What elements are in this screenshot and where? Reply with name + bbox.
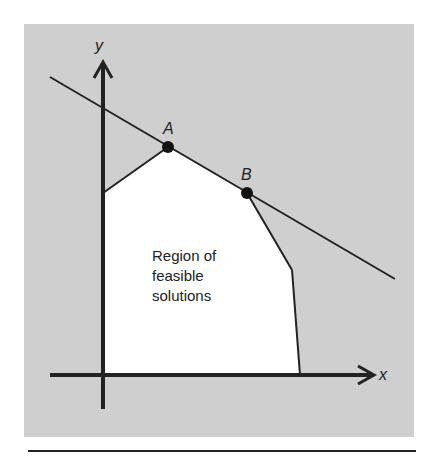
region-label-line-2: feasible: [152, 266, 216, 286]
point-b-label: B: [241, 166, 252, 184]
y-axis-label: y: [95, 37, 103, 55]
region-label-line-3: solutions: [152, 286, 216, 306]
x-axis-label: x: [379, 366, 387, 384]
diagram-canvas: [0, 0, 433, 470]
point-b-marker: [241, 187, 253, 199]
region-label-line-1: Region of: [152, 246, 216, 266]
point-a-label: A: [163, 120, 174, 138]
point-a-marker: [162, 141, 174, 153]
divider-rule: [28, 450, 416, 452]
region-label: Region of feasible solutions: [152, 246, 216, 306]
